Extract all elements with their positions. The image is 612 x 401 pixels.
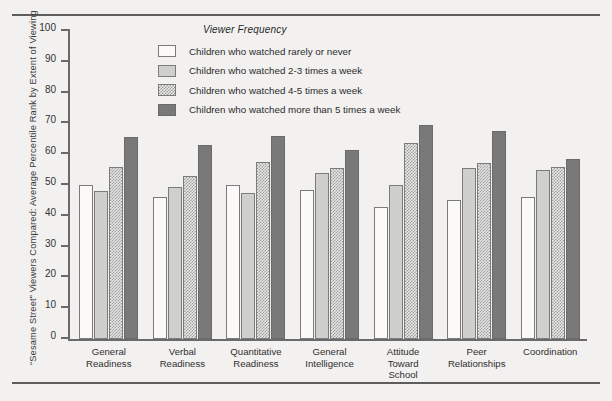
x-axis-category-label-line: Readiness — [72, 358, 146, 370]
y-axis-tick-label: 100 — [39, 22, 56, 33]
y-axis-tick: 70 — [61, 121, 70, 123]
legend: Viewer Frequency Children who watched ra… — [158, 24, 488, 122]
chart-figure: “Sesame Street” Viewers Compared: Averag… — [0, 0, 612, 401]
bar — [300, 190, 314, 339]
y-axis-tick: 30 — [61, 245, 70, 247]
y-axis-tick-label: 0 — [50, 330, 56, 341]
y-axis-tick: 40 — [61, 214, 70, 216]
legend-items: Children who watched rarely or neverChil… — [158, 44, 488, 117]
x-axis-category-label: GeneralIntelligence — [293, 346, 367, 381]
swatch-white-icon — [158, 45, 176, 57]
y-axis-tick-label: 90 — [45, 53, 56, 64]
bar — [241, 193, 255, 339]
y-axis-tick: 50 — [61, 183, 70, 185]
y-axis-tick: 10 — [61, 306, 70, 308]
y-axis-tick: 60 — [61, 152, 70, 154]
x-axis-category-label-line: Verbal — [146, 346, 220, 358]
bar — [536, 170, 550, 339]
bar — [226, 185, 240, 339]
bar — [79, 185, 93, 339]
y-axis-tick-label: 60 — [45, 145, 56, 156]
x-axis-category-label-line: Readiness — [219, 358, 293, 370]
y-axis-tick-label: 10 — [45, 299, 56, 310]
legend-item: Children who watched 2-3 times a week — [158, 64, 488, 78]
x-axis-category-label: QuantitativeReadiness — [219, 346, 293, 381]
y-axis-tick-label: 50 — [45, 176, 56, 187]
x-axis-category-label: Coordination — [513, 346, 587, 381]
x-axis-category-label-line: Intelligence — [293, 358, 367, 370]
legend-item: Children who watched rarely or never — [158, 44, 488, 58]
swatch-dark-gray-icon — [158, 104, 176, 116]
bar — [198, 145, 212, 339]
legend-item-label: Children who watched rarely or never — [189, 46, 351, 57]
bar-group — [513, 31, 587, 339]
bar — [462, 168, 476, 339]
x-axis-category-label-line: Toward — [366, 358, 440, 370]
y-axis-title: “Sesame Street” Viewers Compared: Averag… — [22, 20, 44, 365]
legend-item: Children who watched 4-5 times a week — [158, 83, 488, 97]
bar — [109, 167, 123, 339]
y-axis-tick-label: 30 — [45, 238, 56, 249]
bar — [551, 167, 565, 339]
bar — [183, 176, 197, 339]
x-axis-category-label: AttitudeTowardSchool — [366, 346, 440, 381]
bar — [315, 173, 329, 339]
bar — [124, 137, 138, 339]
x-axis-category-label-line: Quantitative — [219, 346, 293, 358]
legend-item-label: Children who watched 4-5 times a week — [189, 85, 362, 96]
y-axis-tick-label: 20 — [45, 268, 56, 279]
bar — [566, 159, 580, 339]
legend-item: Children who watched more than 5 times a… — [158, 103, 488, 117]
x-axis-category-label-line: General — [72, 346, 146, 358]
y-axis-tick-label: 70 — [45, 114, 56, 125]
bottom-divider-rule — [12, 382, 600, 384]
bar — [389, 185, 403, 339]
y-axis-tick: 80 — [61, 91, 70, 93]
top-divider-rule — [12, 14, 600, 16]
bar — [256, 162, 270, 339]
bar — [374, 207, 388, 339]
x-axis-category-label: GeneralReadiness — [72, 346, 146, 381]
bar — [345, 150, 359, 339]
y-axis-tick: 90 — [61, 60, 70, 62]
bar — [330, 168, 344, 339]
x-axis-baseline — [68, 339, 587, 341]
x-axis-category-label: PeerRelationships — [440, 346, 514, 381]
bar — [521, 197, 535, 339]
legend-item-label: Children who watched 2-3 times a week — [189, 65, 362, 76]
y-axis-tick-label: 80 — [45, 84, 56, 95]
swatch-checkered-icon — [158, 84, 176, 96]
y-axis-tick: 20 — [61, 275, 70, 277]
x-axis-category-label-line: Readiness — [146, 358, 220, 370]
y-axis-line — [68, 30, 70, 340]
x-axis-category-label-line: Peer — [440, 346, 514, 358]
bar — [492, 131, 506, 339]
x-axis-category-label: VerbalReadiness — [146, 346, 220, 381]
legend-item-label: Children who watched more than 5 times a… — [189, 104, 400, 115]
bar — [419, 125, 433, 339]
y-axis-tick: 100 — [61, 29, 70, 31]
x-axis-category-label-line: General — [293, 346, 367, 358]
x-axis-category-label-line: School — [366, 369, 440, 381]
bar — [447, 200, 461, 339]
bar — [153, 197, 167, 339]
bar — [271, 136, 285, 339]
x-axis-category-labels: GeneralReadinessVerbalReadinessQuantitat… — [72, 346, 587, 381]
swatch-light-gray-icon — [158, 65, 176, 77]
bar — [94, 191, 108, 339]
x-axis-category-label-line: Coordination — [513, 346, 587, 358]
x-axis-category-label-line: Attitude — [366, 346, 440, 358]
legend-title: Viewer Frequency — [203, 24, 488, 35]
bar-group — [72, 31, 146, 339]
bar — [404, 143, 418, 339]
bar — [477, 163, 491, 339]
bar — [168, 187, 182, 339]
y-axis-tick-label: 40 — [45, 207, 56, 218]
y-axis-tick: 0 — [61, 337, 70, 339]
x-axis-category-label-line: Relationships — [440, 358, 514, 370]
